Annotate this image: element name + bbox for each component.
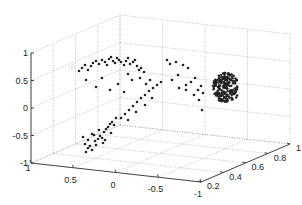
data-point bbox=[103, 131, 106, 134]
data-point bbox=[91, 133, 94, 136]
grid-line bbox=[31, 15, 120, 53]
y-tick bbox=[220, 172, 223, 173]
grid-lines bbox=[31, 15, 290, 182]
cluster-point bbox=[221, 94, 223, 96]
data-point bbox=[197, 89, 200, 92]
cluster-point bbox=[230, 85, 232, 87]
y-tick-label: 0.6 bbox=[252, 162, 265, 172]
cluster-point bbox=[229, 91, 231, 93]
data-point bbox=[101, 77, 104, 80]
data-point bbox=[124, 113, 127, 116]
data-point bbox=[108, 58, 111, 61]
cluster-point bbox=[230, 97, 232, 99]
data-point bbox=[187, 67, 190, 70]
cluster-point bbox=[225, 99, 227, 101]
cluster-point bbox=[224, 83, 226, 85]
cluster-point bbox=[220, 79, 222, 81]
data-point bbox=[198, 99, 201, 102]
data-point bbox=[143, 71, 146, 74]
data-point bbox=[148, 90, 151, 93]
data-point bbox=[90, 65, 93, 68]
data-point bbox=[185, 89, 188, 92]
data-point bbox=[185, 84, 188, 87]
data-point bbox=[99, 135, 102, 138]
data-point bbox=[94, 140, 97, 143]
data-points bbox=[78, 56, 239, 154]
x-tick-label: 0 bbox=[110, 180, 115, 190]
cluster-point bbox=[215, 79, 217, 81]
cluster-point bbox=[220, 98, 222, 100]
data-point bbox=[140, 97, 143, 100]
data-point bbox=[171, 79, 174, 82]
cluster-point bbox=[229, 78, 231, 80]
cluster-point bbox=[224, 72, 226, 74]
x-tick-label: -0.5 bbox=[148, 184, 164, 194]
cluster-point bbox=[232, 93, 234, 95]
data-point bbox=[95, 86, 98, 89]
data-point bbox=[87, 139, 90, 142]
data-point bbox=[131, 79, 134, 82]
y-tick-label: 0.8 bbox=[274, 153, 287, 163]
y-tick-label: 0.4 bbox=[229, 172, 242, 182]
data-point bbox=[104, 61, 107, 64]
data-point bbox=[98, 63, 101, 66]
scatter-3d-plot: -1-0.500.5110.50-0.5-10.20.40.60.81 bbox=[0, 0, 302, 205]
cluster-point bbox=[220, 91, 222, 93]
cluster-point bbox=[226, 78, 228, 80]
data-point bbox=[120, 117, 123, 120]
cluster-point bbox=[218, 77, 220, 79]
grid-line bbox=[98, 135, 268, 154]
y-tick-label: 1 bbox=[296, 143, 301, 153]
cluster-point bbox=[217, 87, 219, 89]
data-point bbox=[109, 89, 112, 92]
cluster-point bbox=[228, 81, 230, 83]
data-point bbox=[95, 60, 98, 63]
data-point bbox=[177, 74, 180, 77]
data-point bbox=[127, 57, 130, 60]
data-point bbox=[106, 64, 109, 67]
cluster-point bbox=[227, 73, 229, 75]
data-point bbox=[104, 139, 107, 142]
data-point bbox=[101, 137, 104, 140]
data-point bbox=[85, 151, 88, 154]
cluster-point bbox=[236, 79, 238, 81]
y-tick bbox=[287, 143, 290, 144]
cluster-point bbox=[226, 88, 228, 90]
data-point bbox=[144, 104, 147, 107]
cluster-point bbox=[226, 95, 228, 97]
z-tick-label: 0 bbox=[23, 103, 28, 113]
data-point bbox=[125, 60, 128, 63]
y-tick bbox=[243, 162, 246, 163]
data-point bbox=[91, 149, 94, 152]
data-point bbox=[128, 109, 131, 112]
cluster-point bbox=[219, 81, 221, 83]
cluster-point bbox=[223, 86, 225, 88]
data-point bbox=[123, 91, 126, 94]
data-point bbox=[112, 60, 115, 63]
cluster-point bbox=[234, 90, 236, 92]
data-point bbox=[78, 70, 81, 73]
data-point bbox=[95, 144, 98, 147]
data-point bbox=[151, 97, 154, 100]
x-tick-label: 0.5 bbox=[64, 175, 77, 185]
data-point bbox=[127, 73, 130, 76]
cluster-point bbox=[218, 74, 220, 76]
data-point bbox=[140, 67, 143, 70]
cluster-point bbox=[226, 90, 228, 92]
data-point bbox=[201, 109, 204, 112]
data-point bbox=[117, 83, 120, 86]
data-point bbox=[132, 61, 135, 64]
data-point bbox=[110, 56, 113, 59]
data-point bbox=[152, 87, 155, 90]
data-point bbox=[85, 79, 88, 82]
z-tick-label: 0.5 bbox=[15, 76, 28, 86]
cluster-point bbox=[216, 94, 218, 96]
y-tick-label: 0.2 bbox=[207, 181, 220, 191]
data-point bbox=[115, 117, 118, 120]
data-point bbox=[118, 59, 121, 62]
data-point bbox=[139, 77, 142, 80]
grid-line bbox=[120, 125, 290, 144]
data-point bbox=[120, 61, 123, 64]
data-point bbox=[138, 69, 141, 72]
data-point bbox=[136, 65, 139, 68]
